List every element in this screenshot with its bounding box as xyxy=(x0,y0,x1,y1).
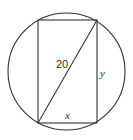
height-label: y xyxy=(99,67,105,79)
inscribed-rectangle-diagram: 20 y x xyxy=(0,0,133,140)
width-label: x xyxy=(64,109,70,121)
rectangle-diagonal xyxy=(38,20,97,123)
diagonal-length-label: 20 xyxy=(56,58,68,70)
